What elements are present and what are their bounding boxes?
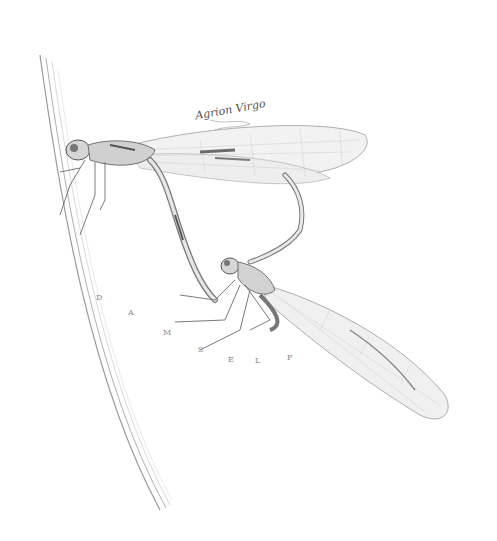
- svg-text:L: L: [255, 356, 261, 365]
- svg-text:M: M: [163, 328, 171, 337]
- svg-text:D: D: [96, 293, 102, 302]
- svg-text:S: S: [198, 345, 203, 354]
- lower-damselfly: [175, 258, 448, 419]
- illustration: Agrion Virgo D A M S E L: [0, 0, 497, 541]
- svg-text:E: E: [228, 355, 234, 364]
- arc-letters: D A M S E L F: [96, 293, 293, 365]
- upper-damselfly: [60, 126, 367, 300]
- grass-stem: [40, 55, 172, 510]
- svg-text:A: A: [127, 308, 134, 317]
- caption: Agrion Virgo: [193, 97, 267, 122]
- svg-text:F: F: [287, 353, 293, 362]
